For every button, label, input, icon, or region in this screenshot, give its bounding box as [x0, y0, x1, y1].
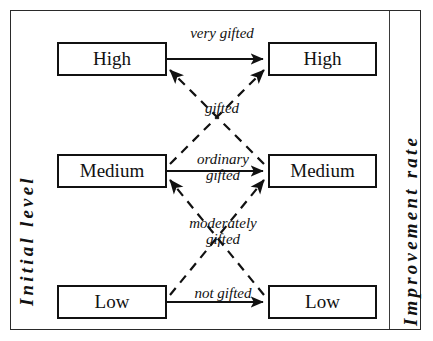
edge-label-ordinary-gifted: ordinary gifted: [177, 152, 269, 184]
edge-label-moderately-gifted-line1: moderately: [163, 216, 283, 232]
node-right-high[interactable]: High: [268, 42, 377, 76]
node-left-low[interactable]: Low: [57, 285, 167, 319]
node-right-low[interactable]: Low: [268, 285, 377, 319]
edge-label-ordinary-gifted-line2: gifted: [177, 168, 269, 184]
edge-label-very-gifted-line1: very gifted: [173, 26, 271, 42]
node-left-medium[interactable]: Medium: [57, 154, 167, 188]
edge-label-not-gifted: not gifted: [178, 286, 268, 302]
edge-label-very-gifted: very gifted: [173, 26, 271, 42]
node-left-high[interactable]: High: [57, 42, 167, 76]
edge-label-gifted: gifted: [178, 101, 266, 117]
edge-label-not-gifted-line1: not gifted: [178, 286, 268, 302]
edge-label-gifted-line1: gifted: [178, 101, 266, 117]
diagram-canvas: Initial level Improvement rate High Medi…: [0, 0, 433, 341]
edge-label-moderately-gifted-line2: gifted: [163, 232, 283, 248]
node-right-medium[interactable]: Medium: [268, 154, 377, 188]
edge-label-moderately-gifted: moderately gifted: [163, 216, 283, 248]
edge-label-ordinary-gifted-line1: ordinary: [177, 152, 269, 168]
